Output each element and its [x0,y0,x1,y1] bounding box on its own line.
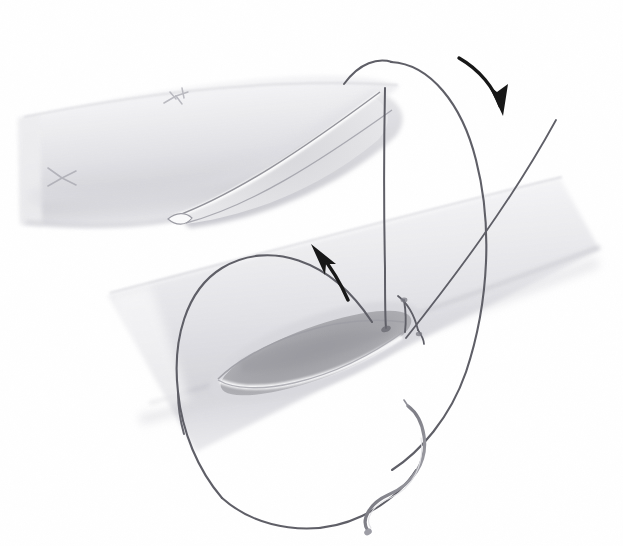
illustration-canvas [0,0,623,546]
suture-entry-point-right [416,332,422,336]
surgical-illustration-figure: Pencil-and-wash surgical illustration: a… [0,0,623,546]
graft-vessel-proximal-end [18,116,42,226]
suture-entry-point-upper [401,298,408,303]
